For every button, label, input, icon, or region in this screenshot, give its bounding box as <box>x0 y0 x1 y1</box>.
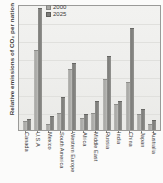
bar <box>27 119 31 130</box>
legend-swatch-icon <box>46 5 51 10</box>
x-axis-label: Africa <box>81 132 87 146</box>
bar-chart-figure: Relative emissions of CO₂ per nation 200… <box>0 0 163 183</box>
x-axis-label: Mexico <box>46 132 52 150</box>
bar-group <box>135 6 146 130</box>
x-axis-label: U.S.A <box>35 132 41 147</box>
bar-group <box>67 6 78 130</box>
bars-layer <box>19 6 160 130</box>
bar-group <box>44 6 55 130</box>
legend-entry[interactable]: 2025 <box>46 11 66 17</box>
chart-legend: 20002025 <box>46 4 66 18</box>
bar-group <box>112 6 123 130</box>
bar <box>61 97 65 130</box>
legend-label: 2000 <box>53 4 66 10</box>
bar-group <box>124 6 135 130</box>
x-axis-label-cell: Japan <box>136 132 148 182</box>
x-axis-label-cell: Africa <box>78 132 90 182</box>
plot-area <box>18 5 161 131</box>
bar <box>152 120 156 130</box>
x-axis-label: Middle East <box>92 132 98 161</box>
y-axis-title: Relative emissions of CO₂ per nation <box>9 1 15 117</box>
bar <box>130 28 134 130</box>
bar-group <box>78 6 89 130</box>
x-axis-label: Japan <box>139 132 145 147</box>
x-axis-label-cell: Australia <box>147 132 159 182</box>
legend-label: 2025 <box>53 11 66 17</box>
x-axis-label-cell: Canada <box>20 132 32 182</box>
bar <box>118 101 122 130</box>
bar-group <box>101 6 112 130</box>
x-axis-label-cell: U.S.A <box>32 132 44 182</box>
x-axis-label-cell: Russia <box>101 132 113 182</box>
x-axis-label-cell: India <box>113 132 125 182</box>
bar-group <box>21 6 32 130</box>
bar <box>50 116 54 130</box>
bar <box>95 101 99 130</box>
bar <box>72 63 76 130</box>
x-axis-label-cell: South America <box>55 132 67 182</box>
x-axis-label: China <box>127 132 133 147</box>
bar-group <box>147 6 158 130</box>
x-axis-label: Western Europe <box>69 132 75 172</box>
bar <box>84 114 88 130</box>
bar <box>38 8 42 130</box>
x-axis-label-cell: China <box>124 132 136 182</box>
bar-group <box>55 6 66 130</box>
bar <box>107 56 111 130</box>
legend-swatch-icon <box>46 12 51 17</box>
bar <box>141 109 145 130</box>
x-axis-label: Russia <box>104 132 110 149</box>
x-axis-label: South America <box>58 132 64 168</box>
legend-entry[interactable]: 2000 <box>46 4 66 10</box>
x-axis-label: Australia <box>150 132 156 154</box>
x-axis-label: Canada <box>23 132 29 152</box>
bar-group <box>90 6 101 130</box>
x-axis-label-cell: Western Europe <box>66 132 78 182</box>
x-axis-label-cell: Middle East <box>89 132 101 182</box>
x-axis-label-cell: Mexico <box>43 132 55 182</box>
bar-group <box>32 6 43 130</box>
x-axis-labels: CanadaU.S.AMexicoSouth AmericaWestern Eu… <box>18 132 161 182</box>
x-axis-label: India <box>116 132 122 144</box>
